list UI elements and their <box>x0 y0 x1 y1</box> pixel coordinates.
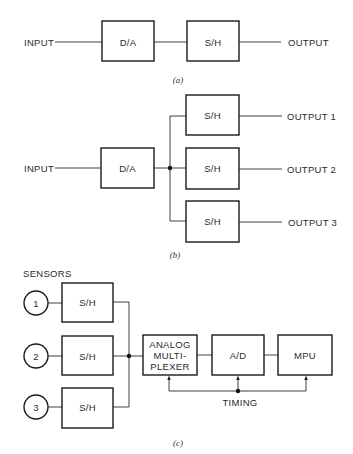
sh-label-a: S/H <box>205 37 222 48</box>
sensor-3-label: 3 <box>33 402 39 413</box>
timing-junction-dot <box>236 389 240 393</box>
input-label-a: INPUT <box>24 37 54 48</box>
arrow-up-icon <box>304 376 307 381</box>
arrow-up-icon <box>167 376 170 381</box>
caption-a: (a) <box>173 75 184 85</box>
diagram-b: INPUT D/A S/H S/H S/H OUTPUT 1 OUTPUT 2 … <box>24 95 337 260</box>
mux-label-line1: ANALOG <box>149 339 190 350</box>
sh2-label-b: S/H <box>204 163 221 174</box>
input-label-b: INPUT <box>24 163 54 174</box>
caption-c: (c) <box>173 438 183 448</box>
output3-label-b: OUTPUT 3 <box>288 217 337 228</box>
sensor-1-label: 1 <box>33 298 39 309</box>
sh3-label-b: S/H <box>204 216 221 227</box>
timing-label: TIMING <box>222 397 257 408</box>
sh2-label-c: S/H <box>79 351 96 362</box>
output-label-a: OUTPUT <box>288 37 329 48</box>
adc-label: A/D <box>230 350 247 361</box>
output2-label-b: OUTPUT 2 <box>287 164 336 175</box>
sensor-2-label: 2 <box>33 351 39 362</box>
arrow-up-icon <box>236 376 239 381</box>
mpu-label: MPU <box>294 350 316 361</box>
junction-dot-b <box>168 166 172 170</box>
sh3-label-c: S/H <box>79 402 96 413</box>
block-diagrams: INPUT D/A S/H OUTPUT (a) INPUT D/A S/H S… <box>0 0 353 454</box>
mux-label-line3: PLEXER <box>150 361 189 372</box>
da-label-a: D/A <box>120 37 137 48</box>
junction-dot-c <box>127 354 131 358</box>
da-label-b: D/A <box>119 163 136 174</box>
sensors-label: SENSORS <box>23 268 72 279</box>
mux-label-line2: MULTI- <box>154 350 187 361</box>
diagram-a: INPUT D/A S/H OUTPUT (a) <box>24 21 329 85</box>
sh1-label-c: S/H <box>79 297 96 308</box>
output1-label-b: OUTPUT 1 <box>287 111 336 122</box>
caption-b: (b) <box>170 250 181 260</box>
diagram-c: SENSORS 1 S/H 2 S/H 3 S/H ANALOG MULTI- … <box>23 268 332 448</box>
sh1-label-b: S/H <box>204 110 221 121</box>
